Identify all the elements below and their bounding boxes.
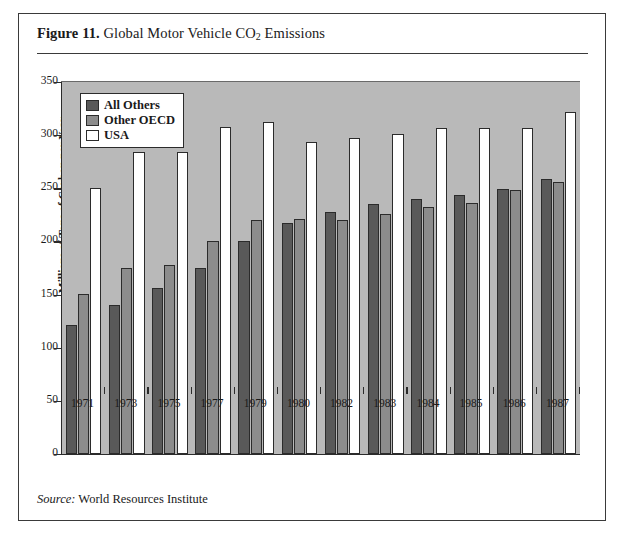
- source-text: World Resources Institute: [78, 492, 208, 506]
- bar: [466, 203, 477, 454]
- x-axis-tick-label: 1975: [157, 397, 180, 409]
- legend-item: USA: [86, 128, 175, 143]
- y-axis-tick-mark: [54, 348, 61, 349]
- legend-swatch: [86, 130, 99, 141]
- x-axis-tick-mark: [277, 387, 278, 394]
- x-axis-tick-label: 1980: [287, 397, 310, 409]
- x-axis-tick-mark: [320, 387, 321, 394]
- bar: [454, 195, 465, 454]
- x-axis-tick-mark: [363, 387, 364, 394]
- y-axis-tick-label: 300: [41, 127, 58, 139]
- bar: [368, 204, 379, 454]
- bar: [164, 265, 175, 454]
- figure-frame: Figure 11. Global Motor Vehicle CO2 Emis…: [18, 13, 606, 521]
- legend-item: All Others: [86, 98, 175, 113]
- x-axis-tick-label: 1987: [546, 397, 569, 409]
- bar: [411, 199, 422, 454]
- x-axis-tick-mark: [450, 387, 451, 394]
- x-axis-tick-label: 1986: [503, 397, 526, 409]
- y-axis-tick-mark: [54, 454, 61, 455]
- source-label: Source:: [37, 492, 75, 506]
- source-line: Source: World Resources Institute: [37, 492, 208, 507]
- bar: [325, 212, 336, 454]
- x-axis-tick-mark: [536, 387, 537, 394]
- bar: [497, 189, 508, 454]
- legend-label: All Others: [104, 99, 160, 112]
- bar: [207, 241, 218, 454]
- y-axis-tick-label: 350: [41, 74, 58, 86]
- x-axis-tick-mark: [147, 387, 148, 394]
- x-axis-tick-mark: [493, 387, 494, 394]
- x-axis-tick-label: 1973: [114, 397, 137, 409]
- bar: [380, 214, 391, 454]
- y-axis-tick-mark: [54, 188, 61, 189]
- y-axis-tick-label: 50: [47, 393, 59, 405]
- x-axis-tick-mark: [579, 387, 580, 394]
- bar-chart: Millions of Tons of Carbon per Year 0501…: [19, 14, 607, 522]
- bar: [90, 188, 101, 454]
- bar: [152, 288, 163, 454]
- legend-label: USA: [104, 129, 129, 142]
- y-axis-tick-mark: [54, 135, 61, 136]
- bar: [66, 325, 77, 454]
- y-axis-tick-mark: [54, 295, 61, 296]
- y-axis-tick-mark: [54, 401, 61, 402]
- chart-legend: All OthersOther OECDUSA: [80, 93, 184, 148]
- bar: [78, 294, 89, 454]
- bar: [423, 207, 434, 454]
- y-axis-tick-label: 200: [41, 233, 58, 245]
- bar: [282, 223, 293, 454]
- x-axis-tick-label: 1971: [71, 397, 94, 409]
- x-axis-tick-label: 1985: [460, 397, 483, 409]
- x-axis-tick-mark: [191, 387, 192, 394]
- bar: [553, 182, 564, 454]
- x-axis-tick-label: 1984: [416, 397, 439, 409]
- y-axis-tick-label: 150: [41, 287, 58, 299]
- bar: [238, 241, 249, 454]
- y-axis-tick-label: 100: [41, 340, 58, 352]
- bar: [337, 220, 348, 454]
- bar: [121, 268, 132, 454]
- bar: [109, 305, 120, 454]
- legend-swatch: [86, 115, 99, 126]
- y-axis-tick-mark: [54, 82, 61, 83]
- y-axis-tick-label: 0: [52, 446, 58, 458]
- x-axis-tick-mark: [104, 387, 105, 394]
- bar: [251, 220, 262, 454]
- x-axis-tick-label: 1979: [244, 397, 267, 409]
- bar: [510, 190, 521, 454]
- bar: [294, 219, 305, 454]
- x-axis-tick-mark: [234, 387, 235, 394]
- x-axis-tick-label: 1982: [330, 397, 353, 409]
- legend-swatch: [86, 100, 99, 111]
- x-axis-tick-label: 1983: [373, 397, 396, 409]
- y-axis-tick-label: 250: [41, 180, 58, 192]
- x-axis-tick-mark: [61, 387, 62, 394]
- legend-item: Other OECD: [86, 113, 175, 128]
- y-axis-tick-mark: [54, 241, 61, 242]
- bar: [195, 268, 206, 454]
- x-axis-tick-label: 1977: [201, 397, 224, 409]
- bar: [541, 179, 552, 454]
- x-axis-tick-mark: [406, 387, 407, 394]
- legend-label: Other OECD: [104, 114, 175, 127]
